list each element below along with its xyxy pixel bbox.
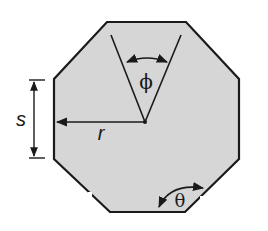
octagon-diagram: ϕ s r θ [0,0,268,231]
theta-label: θ [175,192,186,210]
radius-label: r [98,123,105,143]
diagram-graphic [0,0,268,231]
side-label: s [16,109,26,129]
phi-label: ϕ [139,72,153,92]
